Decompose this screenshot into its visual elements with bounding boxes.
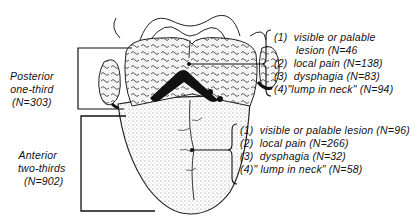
finding-item: (1) visible or palable lesion (N=96) [240,124,410,137]
finding-item: (4)"lump in neck" (N=94) [274,83,393,96]
posterior-count: (N=303) [10,96,54,109]
posterior-findings: (1) visible or palable lesion (N=46 (2) … [274,31,393,96]
anterior-findings: (1) visible or palable lesion (N=96) (2)… [240,124,410,176]
finding-item: (2) local pain (N=138) [274,57,393,70]
anterior-label-line2: two-thirds [10,162,66,175]
finding-item: (1) visible or palable [274,31,393,44]
posterior-label-line2: one-third [10,83,54,96]
posterior-region-label: Posterior one-third (N=303) [10,70,54,109]
finding-item: (3) dysphagia (N=32) [240,150,410,163]
left-tonsil [99,60,126,109]
tongue-anterior [118,96,250,214]
posterior-label-line1: Posterior [10,70,54,83]
finding-item: (3) dysphagia (N=83) [274,70,393,83]
anterior-label-line1: Anterior [10,149,66,162]
finding-item: (2) local pain (N=266) [240,137,410,150]
anterior-region-label: Anterior two-thirds (N=902) [10,149,66,188]
finding-item: (4)" lump in neck" (N=58) [240,163,410,176]
epiglottis [114,15,266,40]
finding-item: lesion (N=46 [274,44,393,57]
tongue-posterior [125,38,257,106]
anterior-count: (N=902) [10,175,66,188]
